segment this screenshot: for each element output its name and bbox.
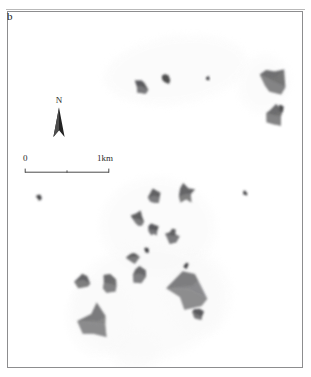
- north-reef-halo: [100, 26, 252, 113]
- figure-panel: N 0 1km b: [0, 0, 311, 377]
- island-c-06: [243, 190, 247, 195]
- scale-bar-min-label: 0: [23, 154, 28, 163]
- map-frame: N 0 1km: [7, 11, 303, 368]
- north-arrow-label: N: [46, 96, 72, 105]
- scale-bar-graphic: [24, 167, 110, 175]
- scale-bar-max-label: 1km: [97, 154, 113, 163]
- island-w-speck: [36, 194, 41, 200]
- top-rule: [6, 9, 305, 10]
- north-arrow: N: [46, 96, 72, 138]
- map-canvas: [8, 12, 302, 367]
- scale-bar: 0 1km: [24, 154, 110, 176]
- panel-label: b: [7, 11, 13, 22]
- north-arrow-icon: [46, 107, 72, 138]
